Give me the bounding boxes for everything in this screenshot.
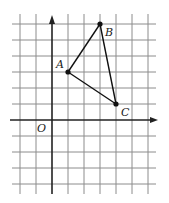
point-a [65, 69, 70, 74]
coordinate-diagram: O ABC [0, 0, 169, 203]
x-axis-arrow-icon [150, 117, 158, 123]
point-b [97, 21, 102, 26]
origin-label: O [37, 122, 46, 135]
point-label-c: C [121, 106, 130, 119]
grid-lines [12, 14, 156, 194]
point-label-b: B [104, 26, 113, 39]
y-axis-arrow-icon [49, 15, 55, 24]
point-c [113, 101, 118, 106]
point-label-a: A [55, 58, 64, 71]
